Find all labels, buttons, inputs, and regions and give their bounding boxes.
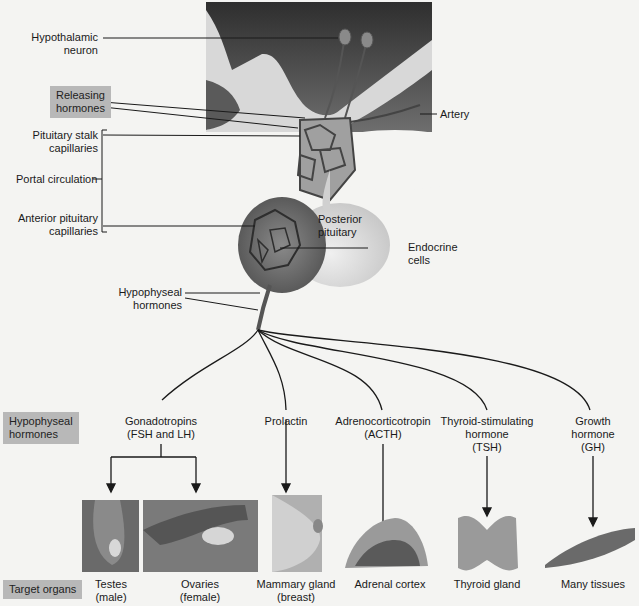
target-thyroid-gland: Thyroid gland (454, 578, 521, 591)
label-pituitary-stalk-capillaries: Pituitary stalk capillaries (33, 129, 98, 155)
label-line: Growth (571, 415, 614, 428)
label-line: cells (408, 254, 458, 267)
target-adrenal-cortex: Adrenal cortex (355, 578, 426, 591)
hormone-prolactin: Prolactin (265, 415, 308, 428)
target-ovaries: Ovaries (female) (180, 578, 220, 604)
anterior-pituitary-shape (238, 197, 326, 293)
label-line: hormone (441, 428, 534, 441)
label-line: Prolactin (265, 415, 308, 428)
label-line: hormones (118, 299, 182, 312)
breast-illustration (272, 495, 323, 572)
label-line: Thyroid-stimulating (441, 415, 534, 428)
label-anterior-pituitary-capillaries: Anterior pituitary capillaries (18, 212, 98, 238)
label-endocrine-cells: Endocrine cells (408, 241, 458, 267)
label-line: (ACTH) (335, 428, 430, 441)
label-line: Hypothalamic (31, 31, 98, 44)
label-line: Anterior pituitary (18, 212, 98, 225)
label-line: Endocrine (408, 241, 458, 254)
label-line: Testes (95, 578, 127, 591)
label-line: capillaries (18, 225, 98, 238)
thyroid-illustration (458, 516, 518, 570)
label-line: pituitary (318, 226, 362, 239)
label-line: Many tissues (561, 578, 625, 591)
label-line: (breast) (257, 591, 336, 604)
label-line: (female) (180, 591, 220, 604)
label-line: Gonadotropins (125, 415, 197, 428)
label-line: Mammary gland (257, 578, 336, 591)
label-line: Hypophyseal (9, 415, 73, 428)
hormone-acth: Adrenocorticotropin (ACTH) (335, 415, 430, 441)
hormone-gh: Growth hormone (GH) (571, 415, 614, 454)
label-line: (male) (95, 591, 127, 604)
row-header-target-organs: Target organs (3, 580, 82, 599)
label-line: Pituitary stalk (33, 129, 98, 142)
label-hypophyseal-hormones-stalk: Hypophyseal hormones (118, 286, 182, 312)
label-line: Ovaries (180, 578, 220, 591)
hormone-gonadotropins: Gonadotropins (FSH and LH) (125, 415, 197, 441)
muscle-illustration (545, 528, 635, 568)
label-line: (FSH and LH) (125, 428, 197, 441)
label-line: Thyroid gland (454, 578, 521, 591)
label-hypothalamic-neuron: Hypothalamic neuron (31, 31, 98, 57)
label-line: (GH) (571, 441, 614, 454)
label-line: hormone (571, 428, 614, 441)
adrenal-cortex-illustration (345, 518, 428, 568)
label-line: neuron (31, 44, 98, 57)
ovaries-illustration (143, 500, 258, 572)
label-artery: Artery (440, 108, 469, 121)
label-line: Hypophyseal (118, 286, 182, 299)
testes-illustration (82, 500, 139, 572)
label-line: (TSH) (441, 441, 534, 454)
label-line: Adrenocorticotropin (335, 415, 430, 428)
label-line: Adrenal cortex (355, 578, 426, 591)
hormone-tsh: Thyroid-stimulating hormone (TSH) (441, 415, 534, 454)
hormone-pathways (162, 330, 590, 410)
target-mammary-gland: Mammary gland (breast) (257, 578, 336, 604)
label-line: hormones (56, 102, 105, 115)
label-portal-circulation: Portal circulation (16, 173, 97, 186)
label-line: hormones (9, 428, 73, 441)
label-line: Posterior (318, 213, 362, 226)
label-releasing-hormones: Releasing hormones (50, 86, 111, 118)
label-posterior-pituitary: Posterior pituitary (318, 213, 362, 239)
label-line: capillaries (33, 142, 98, 155)
target-many-tissues: Many tissues (561, 578, 625, 591)
label-line: Releasing (56, 89, 105, 102)
row-header-hypophyseal-hormones: Hypophyseal hormones (3, 412, 79, 444)
target-testes: Testes (male) (95, 578, 127, 604)
